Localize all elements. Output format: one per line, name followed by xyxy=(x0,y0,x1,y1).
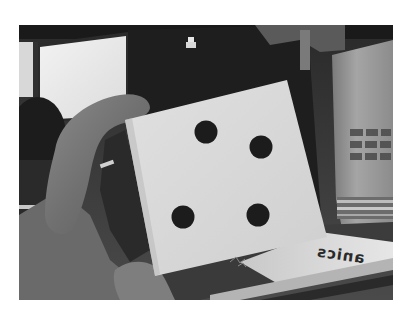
left-small-screen xyxy=(19,42,33,97)
bottom-left-dot xyxy=(172,206,195,229)
photograph: anics xyxy=(19,25,393,300)
background-post xyxy=(300,30,310,70)
can-text xyxy=(350,129,391,160)
top-right-dot xyxy=(250,136,273,159)
can-lid-ring-3 xyxy=(337,214,393,216)
photo-scene: anics xyxy=(19,25,393,300)
can-lid-ring-1 xyxy=(337,200,393,203)
can-lid-ring-2 xyxy=(337,207,393,210)
image-canvas: anics xyxy=(0,0,410,320)
bottom-right-dot xyxy=(247,204,270,227)
top-left-dot xyxy=(195,121,218,144)
